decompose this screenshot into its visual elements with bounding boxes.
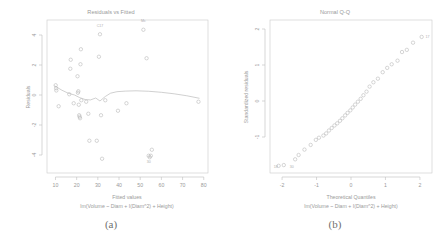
panel-a-x-label: Fitted values <box>112 194 142 200</box>
data-point <box>77 103 80 106</box>
point-label: Mc <box>141 19 146 23</box>
data-point <box>317 136 320 139</box>
data-point <box>72 102 75 105</box>
figure-container: Residuals vs Fitted 420-2-4 102030405060… <box>0 0 445 232</box>
x-tick-label: 10 <box>53 182 59 188</box>
panel-a-x-sublabel: lm(Volume ~ Diam + I(Diam^2) + Height) <box>80 203 174 209</box>
panel-b-plot-frame <box>270 20 432 173</box>
data-point <box>142 28 145 31</box>
panel-b-title: Normal Q-Q <box>320 9 351 15</box>
residuals-vs-fitted-plot: Residuals vs Fitted 420-2-4 102030405060… <box>0 0 222 232</box>
data-point <box>368 85 371 88</box>
data-point <box>197 100 200 103</box>
data-point <box>400 50 403 53</box>
data-point <box>297 153 300 156</box>
data-point <box>76 75 79 78</box>
data-point <box>99 114 102 117</box>
data-point <box>80 99 83 102</box>
x-tick-label: -2 <box>280 182 285 188</box>
y-tick-label: 0 <box>31 93 37 96</box>
data-point <box>84 100 87 103</box>
x-tick-label: 80 <box>201 182 207 188</box>
data-point <box>95 139 98 142</box>
panel-a-x-axis: 1020304050607080 <box>53 177 207 188</box>
x-tick-label: 20 <box>74 182 80 188</box>
panel-b-x-label: Theoretical Quantiles <box>326 194 375 200</box>
data-point <box>372 81 375 84</box>
data-point <box>88 139 91 142</box>
data-point <box>145 57 148 60</box>
y-tick-label: 2 <box>31 63 37 66</box>
x-tick-label: 30 <box>95 182 101 188</box>
data-point <box>87 112 90 115</box>
y-tick-label: 2 <box>254 27 260 30</box>
data-point <box>336 122 339 125</box>
data-point <box>396 59 399 62</box>
x-tick-label: 0 <box>350 182 353 188</box>
data-point <box>314 138 317 141</box>
data-point <box>356 100 359 103</box>
normal-qq-plot: Normal Q-Q 210-1 -2-1012 183017 Theoreti… <box>222 0 445 232</box>
data-point <box>365 90 368 93</box>
x-tick-label: 60 <box>159 182 165 188</box>
point-label: C17 <box>97 24 104 28</box>
panel-residuals-vs-fitted: Residuals vs Fitted 420-2-4 102030405060… <box>0 0 222 232</box>
data-point <box>351 106 354 109</box>
data-point <box>324 132 327 135</box>
data-point <box>69 67 72 70</box>
data-point <box>55 89 58 92</box>
panel-b-x-sublabel: lm(Volume ~ Diam + I(Diam^2) + Height) <box>304 203 398 209</box>
panel-b-caption: (b) <box>329 218 342 231</box>
panel-b-data-points <box>277 35 423 167</box>
data-point <box>293 158 296 161</box>
data-point <box>327 129 330 132</box>
panel-b-point-labels: 183017 <box>274 35 430 169</box>
data-point <box>150 148 153 151</box>
data-point <box>385 66 388 69</box>
data-point <box>282 163 285 166</box>
data-point <box>353 103 356 106</box>
data-point <box>405 48 408 51</box>
data-point <box>349 109 352 112</box>
data-point <box>420 35 423 38</box>
panel-normal-qq: Normal Q-Q 210-1 -2-1012 183017 Theoreti… <box>222 0 444 232</box>
data-point <box>100 157 103 160</box>
panel-a-point-labels: C17Mc30 <box>97 19 151 164</box>
y-tick-label: -4 <box>31 153 37 158</box>
panel-b-y-label: Standardized residuals <box>243 70 249 123</box>
panel-a-y-label: Residuals <box>25 85 31 108</box>
data-point <box>125 102 128 105</box>
data-point <box>79 48 82 51</box>
panel-b-x-axis: -2-1012 <box>280 177 422 188</box>
panel-a-caption: (a) <box>105 218 118 231</box>
y-tick-label: -1 <box>254 135 260 140</box>
data-point <box>359 97 362 100</box>
data-point <box>376 77 379 80</box>
y-tick-label: -2 <box>31 123 37 128</box>
point-label: 18 <box>274 165 278 169</box>
x-tick-label: 70 <box>180 182 186 188</box>
data-point <box>362 94 365 97</box>
data-point <box>79 63 82 66</box>
point-label: 30 <box>290 165 294 169</box>
data-point <box>97 55 100 58</box>
panel-b-y-axis: 210-1 <box>254 27 265 139</box>
point-label: 17 <box>426 35 430 39</box>
data-point <box>381 71 384 74</box>
data-point <box>303 148 306 151</box>
y-tick-label: 0 <box>254 99 260 102</box>
data-point <box>346 111 349 114</box>
data-point <box>69 58 72 61</box>
data-point <box>341 117 344 120</box>
data-point <box>57 105 60 108</box>
data-point <box>98 33 101 36</box>
panel-a-title: Residuals vs Fitted <box>87 9 134 15</box>
y-tick-label: 4 <box>31 33 37 36</box>
data-point <box>309 143 312 146</box>
x-tick-label: 50 <box>137 182 143 188</box>
data-point <box>411 41 414 44</box>
data-point <box>104 99 107 102</box>
panel-a-y-axis: 420-2-4 <box>31 33 42 157</box>
x-tick-label: 2 <box>418 182 421 188</box>
panel-a-plot-frame <box>47 20 208 173</box>
